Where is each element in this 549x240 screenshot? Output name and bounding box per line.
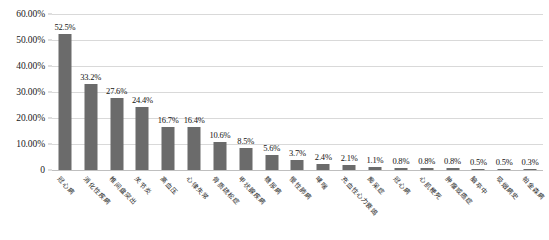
x-axis-category-label: 冠心病 bbox=[392, 174, 414, 196]
bar-slot: 2.4% bbox=[310, 14, 336, 170]
bar[interactable] bbox=[84, 84, 97, 170]
bar[interactable] bbox=[446, 168, 459, 170]
bar[interactable] bbox=[394, 168, 407, 170]
bar-value-label: 16.4% bbox=[184, 115, 205, 125]
bar[interactable] bbox=[498, 169, 511, 170]
x-axis-label-slot: 脑卒中 bbox=[465, 172, 491, 240]
bar-slot: 3.7% bbox=[285, 14, 311, 170]
x-axis-category-label: 关节炎 bbox=[133, 174, 155, 196]
bar[interactable] bbox=[110, 98, 123, 170]
bar[interactable] bbox=[213, 142, 226, 170]
x-axis-label-slot: 痴呆症 bbox=[362, 172, 388, 240]
bar-value-label: 27.6% bbox=[106, 86, 127, 96]
bar-chart: 010.00%20.00%30.00%40.00%50.00%60.00% 52… bbox=[0, 0, 549, 240]
bar-slot: 0.8% bbox=[388, 14, 414, 170]
x-axis-label-slot: 消化性疾病 bbox=[78, 172, 104, 240]
bar-value-label: 2.1% bbox=[341, 153, 358, 163]
x-axis-label-slot: 椎间盘突出 bbox=[104, 172, 130, 240]
bar-value-label: 1.1% bbox=[367, 155, 384, 165]
x-axis-label-slot: 帕金森病 bbox=[517, 172, 543, 240]
bar-value-label: 0.8% bbox=[392, 156, 409, 166]
bar-slot: 0.8% bbox=[440, 14, 466, 170]
bar-slot: 16.7% bbox=[155, 14, 181, 170]
bar-slot: 52.5% bbox=[52, 14, 78, 170]
x-axis-category-label: 痴呆症 bbox=[366, 174, 388, 196]
x-axis-category-label: 帕金森病 bbox=[521, 174, 548, 202]
x-axis-category-label: 哮喘 bbox=[314, 174, 331, 191]
bar[interactable] bbox=[291, 160, 304, 170]
x-axis-label-slot: 甲状腺疾病 bbox=[233, 172, 259, 240]
x-axis-label-slot: 充血性心力衰竭 bbox=[336, 172, 362, 240]
x-axis-category-label: 糖尿病 bbox=[262, 174, 284, 196]
bar-slot: 0.5% bbox=[491, 14, 517, 170]
bar-slot: 0.8% bbox=[414, 14, 440, 170]
bar-slot: 10.6% bbox=[207, 14, 233, 170]
bar-slot: 16.4% bbox=[181, 14, 207, 170]
bar-value-label: 3.7% bbox=[289, 148, 306, 158]
x-axis-label-slot: 冠心病 bbox=[52, 172, 78, 240]
x-axis-label-slot: 高血压 bbox=[155, 172, 181, 240]
bar-value-label: 2.4% bbox=[315, 152, 332, 162]
bar-slot: 33.2% bbox=[78, 14, 104, 170]
bars-layer: 52.5%33.2%27.6%24.4%16.7%16.4%10.6%8.5%5… bbox=[52, 14, 543, 170]
bar-slot: 1.1% bbox=[362, 14, 388, 170]
bar[interactable] bbox=[369, 167, 382, 170]
bar-value-label: 33.2% bbox=[80, 72, 101, 82]
bar-slot: 0.5% bbox=[465, 14, 491, 170]
bar[interactable] bbox=[239, 148, 252, 170]
bar[interactable] bbox=[188, 127, 201, 170]
axis-baseline bbox=[52, 170, 543, 171]
bar[interactable] bbox=[58, 34, 71, 171]
bar-value-label: 0.5% bbox=[470, 157, 487, 167]
bar-slot: 5.6% bbox=[259, 14, 285, 170]
bar-value-label: 0.3% bbox=[522, 157, 539, 167]
x-axis-label-slot: 关节炎 bbox=[130, 172, 156, 240]
y-axis-tick-label: 30.00% bbox=[16, 87, 45, 97]
bar-value-label: 16.7% bbox=[158, 115, 179, 125]
bar-slot: 8.5% bbox=[233, 14, 259, 170]
bar-slot: 0.3% bbox=[517, 14, 543, 170]
x-axis-category-label: 高血压 bbox=[159, 174, 181, 196]
x-axis-label-slot: 慢性肺病 bbox=[285, 172, 311, 240]
x-axis-label-slot: 心肌梗死 bbox=[414, 172, 440, 240]
bar-value-label: 24.4% bbox=[132, 95, 153, 105]
bar[interactable] bbox=[136, 107, 149, 170]
bar[interactable] bbox=[265, 155, 278, 170]
bar-value-label: 52.5% bbox=[54, 22, 75, 32]
x-axis-category-label: 脑卒中 bbox=[469, 174, 491, 196]
bar[interactable] bbox=[343, 165, 356, 170]
y-axis: 010.00%20.00%30.00%40.00%50.00%60.00% bbox=[0, 14, 52, 170]
x-axis-label-slot: 哮喘 bbox=[310, 172, 336, 240]
x-axis-label-slot: 心律失常 bbox=[181, 172, 207, 240]
y-axis-tick-label: 20.00% bbox=[16, 113, 45, 123]
bar-value-label: 10.6% bbox=[209, 130, 230, 140]
bar-value-label: 0.5% bbox=[496, 157, 513, 167]
bar[interactable] bbox=[420, 168, 433, 170]
x-axis-label-slot: 骨质疏松症 bbox=[207, 172, 233, 240]
bar[interactable] bbox=[317, 164, 330, 170]
bar-value-label: 0.8% bbox=[418, 156, 435, 166]
bar-slot: 24.4% bbox=[130, 14, 156, 170]
bar[interactable] bbox=[524, 169, 537, 170]
y-axis-tick-label: 60.00% bbox=[16, 9, 45, 19]
bar-slot: 27.6% bbox=[104, 14, 130, 170]
x-axis-label-slot: 吸烟病史 bbox=[491, 172, 517, 240]
y-axis-tick-label: 10.00% bbox=[16, 139, 45, 149]
x-axis-label-slot: 冠心病 bbox=[388, 172, 414, 240]
bar-value-label: 8.5% bbox=[237, 136, 254, 146]
x-axis-label-slot: 肿瘤或癌症 bbox=[440, 172, 466, 240]
x-axis-label-slot: 糖尿病 bbox=[259, 172, 285, 240]
x-axis-labels: 冠心病消化性疾病椎间盘突出关节炎高血压心律失常骨质疏松症甲状腺疾病糖尿病慢性肺病… bbox=[52, 172, 543, 240]
y-axis-tick-label: 40.00% bbox=[16, 61, 45, 71]
bar[interactable] bbox=[162, 127, 175, 170]
x-axis-category-label: 冠心病 bbox=[56, 174, 78, 196]
bar-value-label: 5.6% bbox=[263, 143, 280, 153]
y-axis-tick-label: 50.00% bbox=[16, 35, 45, 45]
bar-slot: 2.1% bbox=[336, 14, 362, 170]
bar[interactable] bbox=[472, 169, 485, 170]
y-axis-tick-label: 0 bbox=[40, 165, 45, 175]
bar-value-label: 0.8% bbox=[444, 156, 461, 166]
